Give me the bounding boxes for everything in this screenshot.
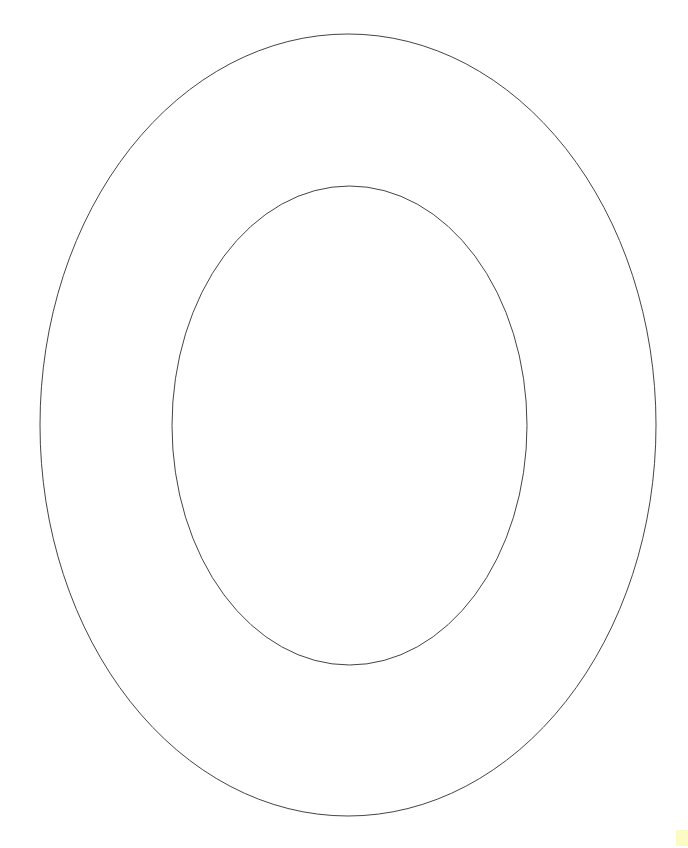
outer-ellipse <box>40 34 656 816</box>
coloring-page-canvas <box>0 0 688 848</box>
letter-o-outline <box>0 0 688 848</box>
inner-ellipse <box>172 186 527 665</box>
corner-mark <box>676 830 688 846</box>
